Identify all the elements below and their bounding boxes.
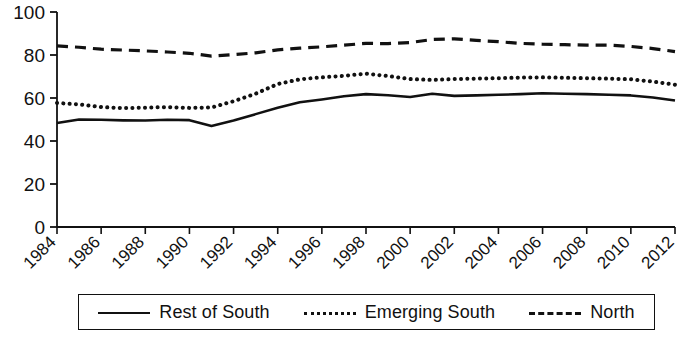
y-tick-label: 20 — [24, 174, 45, 195]
y-tick-label: 100 — [13, 2, 45, 23]
x-tick-label: 1994 — [240, 232, 280, 272]
legend-swatch-dotted-line-icon — [304, 306, 356, 318]
series-line-rest-of-south — [57, 93, 675, 126]
legend-label: North — [590, 302, 635, 323]
x-tick-label: 1986 — [64, 232, 104, 272]
x-tick-label: 2000 — [373, 232, 413, 272]
x-tick-label: 2004 — [461, 232, 501, 272]
legend-entry-rest-of-south: Rest of South — [98, 302, 269, 323]
legend-swatch-dashed-line-icon — [529, 306, 581, 318]
legend-label: Rest of South — [159, 302, 269, 323]
y-tick-label: 40 — [24, 131, 45, 152]
x-tick-label: 1984 — [20, 232, 60, 272]
legend-entry-emerging-south: Emerging South — [304, 302, 495, 323]
y-tick-label: 60 — [24, 88, 45, 109]
x-tick-label: 1988 — [108, 232, 148, 272]
legend-swatch-solid-line-icon — [98, 306, 150, 318]
x-tick-label: 1998 — [329, 232, 369, 272]
x-tick-label: 1992 — [196, 232, 236, 272]
x-axis — [57, 227, 675, 234]
x-tick-label: 1990 — [152, 232, 192, 272]
series-line-emerging-south — [57, 74, 675, 108]
x-tick-label: 2012 — [638, 232, 678, 272]
line-chart: 020406080100 198419861988199019921994199… — [0, 0, 685, 337]
data-series-group — [57, 39, 675, 126]
legend-label: Emerging South — [365, 302, 495, 323]
x-tick-label: 1996 — [285, 232, 325, 272]
x-tick-label: 2002 — [417, 232, 457, 272]
x-tick-label: 2008 — [549, 232, 589, 272]
x-tick-labels: 1984198619881990199219941996199820002002… — [20, 232, 678, 272]
plot-area: 020406080100 198419861988199019921994199… — [0, 0, 685, 290]
x-tick-label: 2006 — [505, 232, 545, 272]
y-tick-label: 80 — [24, 45, 45, 66]
legend-entry-north: North — [529, 302, 635, 323]
series-line-north — [57, 39, 675, 56]
chart-legend: Rest of SouthEmerging SouthNorth — [78, 294, 655, 330]
y-axis: 020406080100 — [13, 2, 57, 238]
x-tick-label: 2010 — [594, 232, 634, 272]
